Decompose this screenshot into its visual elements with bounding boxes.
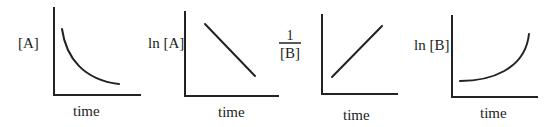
panel-3-line — [332, 26, 382, 77]
panel-1: [A] time — [18, 8, 140, 119]
panel-2: ln [A] time — [148, 12, 278, 120]
panel-3: 1 [B] time — [279, 15, 397, 123]
panel-1-ylabel: [A] — [18, 35, 39, 51]
panel-2-xlabel: time — [218, 104, 245, 120]
panel-4-ylabel: ln [B] — [414, 37, 449, 53]
kinetics-diagram: [A] time ln [A] time 1 [B] time ln [B] t… — [0, 0, 558, 127]
panel-2-line — [205, 24, 255, 76]
panel-1-axes — [54, 8, 140, 95]
panel-1-xlabel: time — [73, 103, 100, 119]
panel-4-xlabel: time — [480, 105, 507, 121]
panel-3-axes — [322, 15, 397, 94]
panel-4-axes — [452, 16, 537, 97]
panel-3-xlabel: time — [343, 107, 370, 123]
panel-2-ylabel: ln [A] — [148, 35, 184, 51]
panel-3-ylabel-numerator: 1 — [287, 28, 294, 43]
panel-1-curve — [62, 29, 119, 84]
panel-2-axes — [185, 12, 278, 96]
panel-4-curve — [460, 34, 529, 81]
panel-4: ln [B] time — [414, 16, 537, 121]
panel-3-ylabel-denominator: [B] — [280, 45, 300, 61]
